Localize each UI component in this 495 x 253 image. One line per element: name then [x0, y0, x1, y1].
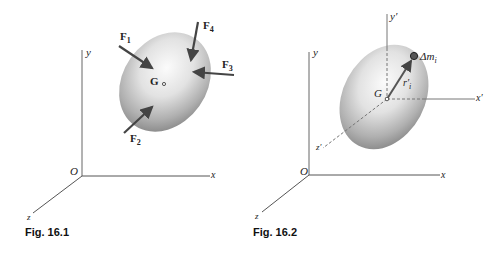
fig1-force-label-3: F3: [222, 59, 233, 73]
fig2-x-prime-axis-label: x′: [476, 93, 483, 103]
fig2-y-axis-label: y: [313, 47, 318, 58]
fig2-y-prime-axis-label: y′: [390, 11, 397, 22]
fig2-origin-label: O: [300, 166, 308, 177]
fig2-z-axis-label: z: [255, 212, 259, 221]
fig1-force-label-4: F4: [203, 20, 214, 34]
fig2-caption: Fig. 16.2: [253, 226, 297, 238]
fig1-x-axis-label: x: [211, 170, 215, 180]
fig1-caption: Fig. 16.1: [25, 226, 69, 238]
fig1-force-label-2: F2: [130, 133, 141, 147]
fig2-center-of-mass-label: G: [374, 88, 382, 99]
fig1-origin-label: O: [70, 166, 78, 177]
fig2-z-prime-axis-label: z′: [316, 143, 321, 152]
fig1-z-axis-label: z: [27, 213, 31, 222]
fig1-z-axis: [33, 176, 82, 213]
diagram-canvas: [0, 0, 495, 253]
fig1-center-of-mass-label: G: [150, 76, 159, 87]
fig2-z-axis: [262, 175, 309, 212]
fig-16-2-graphic: [262, 14, 475, 212]
fig2-position-vector-label: r′i: [403, 78, 411, 91]
fig1-force-label-1: F1: [120, 31, 131, 45]
fig2-mass-element-label: Δmi: [420, 51, 437, 65]
fig2-center-of-mass-point: [385, 97, 389, 101]
fig-16-1-graphic: [33, 14, 234, 213]
fig2-mass-element-particle: [410, 52, 417, 59]
fig2-x-axis-label: x: [441, 170, 445, 180]
fig1-y-axis-label: y: [86, 47, 91, 58]
